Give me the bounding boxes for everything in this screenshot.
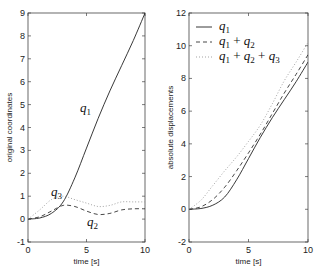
figure: -101234567890510time [s]original coordin…	[0, 0, 321, 272]
y-tick-label: 5	[20, 100, 25, 110]
y-tick-label: -2	[178, 237, 186, 247]
x-tick-label: 10	[303, 245, 313, 255]
x-tick-label: 0	[25, 245, 30, 255]
x-tick-label: 5	[246, 245, 251, 255]
y-tick-label: 6	[181, 106, 186, 116]
y-tick-label: 0	[20, 214, 25, 224]
x-tick-label: 10	[140, 245, 150, 255]
y-tick-label: 3	[20, 145, 25, 155]
legend: q1q1 + q2q1 + q2 + q3	[196, 18, 280, 65]
series-line-q1	[189, 62, 308, 209]
y-tick-label: 10	[176, 41, 186, 51]
y-tick-label: -1	[17, 237, 25, 247]
y-tick-label: 4	[181, 139, 186, 149]
y-tick-label: 2	[181, 172, 186, 182]
y-tick-label: 9	[20, 8, 25, 18]
series-line-q1q2	[189, 55, 308, 210]
left-axes: -101234567890510time [s]original coordin…	[5, 8, 150, 266]
annotation-q2: q2	[87, 214, 98, 231]
x-tick-label: 0	[186, 245, 191, 255]
y-tick-label: 7	[20, 54, 25, 64]
y-tick-label: 1	[20, 191, 25, 201]
axes-frame	[28, 13, 145, 242]
y-tick-label: 2	[20, 168, 25, 178]
y-tick-label: 6	[20, 77, 25, 87]
y-axis-label: original coordinates	[5, 93, 14, 162]
y-tick-label: 0	[181, 204, 186, 214]
legend-entry: q1 + q2 + q3	[219, 48, 280, 65]
y-tick-label: 4	[20, 123, 25, 133]
y-tick-label: 8	[181, 73, 186, 83]
series-line-q1q2q3	[189, 42, 308, 209]
right-axes: -20246810120510time [s]absolute displace…	[166, 8, 313, 266]
x-axis-label: time [s]	[74, 257, 100, 266]
y-axis-label: absolute displacements	[166, 86, 175, 170]
y-tick-label: 8	[20, 31, 25, 41]
x-axis-label: time [s]	[236, 257, 262, 266]
annotation-q1: q1	[80, 100, 91, 117]
y-tick-label: 12	[176, 8, 186, 18]
annotation-q3: q3	[51, 184, 63, 201]
x-tick-label: 5	[84, 245, 89, 255]
